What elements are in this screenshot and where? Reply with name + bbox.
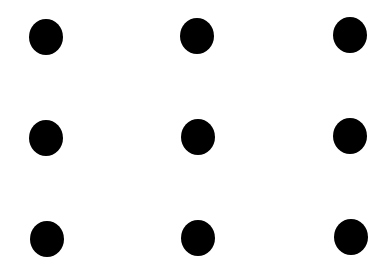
dot-r1-c1 — [181, 119, 215, 155]
dot-r0-c2 — [333, 17, 367, 53]
dot-r2-c0 — [30, 221, 64, 257]
dot-r1-c2 — [333, 118, 367, 154]
dot-r0-c0 — [29, 19, 63, 55]
dot-r2-c1 — [181, 220, 215, 256]
dot-r0-c1 — [180, 18, 214, 54]
dot-r2-c2 — [334, 219, 368, 255]
dot-r1-c0 — [29, 120, 63, 156]
nine-dots-figure — [0, 0, 387, 280]
